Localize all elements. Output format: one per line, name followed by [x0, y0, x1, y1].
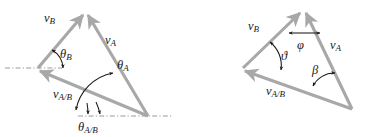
- figure-container: vB vA vA/B θB θA θA/B: [0, 0, 372, 137]
- left-label-vA: vA: [105, 33, 117, 48]
- left-angle-arc-thetaAB: [96, 102, 100, 114]
- right-label-vB: vB: [248, 19, 260, 34]
- left-label-thetaA: θA: [117, 58, 129, 73]
- right-label-vAB: vA/B: [266, 84, 286, 99]
- left-label-vB: vB: [44, 11, 56, 26]
- right-label-beta: β: [311, 63, 319, 77]
- left-label-vAB: vA/B: [53, 87, 73, 102]
- right-label-phi: φ: [297, 38, 304, 52]
- right-label-vA: vA: [330, 38, 342, 53]
- left-label-thetaAB: θA/B: [78, 120, 98, 135]
- right-angle-arc-vartheta: [270, 42, 281, 70]
- left-diagram: vB vA vA/B θB θA θA/B: [5, 11, 172, 135]
- vector-diagram-svg: vB vA vA/B θB θA θA/B: [0, 0, 372, 137]
- left-angle-arc-thetaA: [76, 73, 113, 110]
- right-label-vartheta: ϑ: [281, 49, 288, 63]
- right-diagram: vB vA vA/B φ ϑ β: [243, 13, 352, 109]
- left-angle-arc-thetaAB-inner: [87, 103, 88, 114]
- left-label-thetaB: θB: [60, 47, 72, 62]
